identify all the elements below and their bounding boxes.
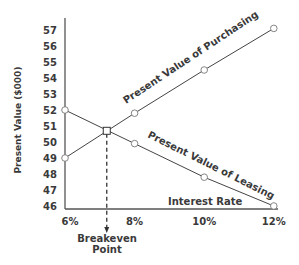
y-tick-label: 47 (43, 185, 57, 196)
y-tick-label: 54 (43, 73, 57, 84)
y-tick-labels: 464748495051525354555657 (43, 25, 57, 212)
data-point-marker (131, 140, 138, 147)
y-tick-label: 46 (43, 201, 57, 212)
breakeven-label-point: Point (92, 244, 122, 255)
leasing-line (65, 110, 274, 206)
data-point-marker (271, 203, 278, 210)
leasing-line-label: Present Value of Leasing (146, 129, 276, 201)
y-tick-label: 55 (43, 57, 57, 68)
y-tick-label: 49 (43, 153, 57, 164)
data-point-marker (201, 67, 208, 74)
data-point-marker (62, 155, 69, 162)
y-axis-label: Present Value ($000) (13, 67, 23, 174)
y-tick-label: 48 (43, 169, 57, 180)
data-point-marker (201, 174, 208, 181)
x-tick-label: 10% (192, 216, 216, 227)
data-point-marker (62, 107, 69, 114)
x-tick-label: 12% (262, 216, 286, 227)
x-tick-label: 8% (126, 216, 143, 227)
y-tick-label: 51 (43, 121, 57, 132)
breakeven-label: Breakeven (77, 233, 137, 244)
x-tick-labels: 6%8%10%12% (62, 216, 286, 227)
breakeven-marker (103, 127, 110, 134)
data-point-marker (131, 110, 138, 117)
y-tick-label: 50 (43, 137, 57, 148)
purchasing-line-label: Present Value of Purchasing (121, 8, 260, 105)
data-point-marker (271, 25, 278, 32)
y-tick-label: 57 (43, 25, 57, 36)
chart: 464748495051525354555657 6%8%10%12% Pres… (0, 0, 299, 265)
y-tick-label: 56 (43, 41, 57, 52)
y-tick-label: 52 (43, 105, 57, 116)
x-axis-label: Interest Rate (168, 196, 243, 207)
y-tick-label: 53 (43, 89, 57, 100)
x-tick-label: 6% (62, 216, 79, 227)
